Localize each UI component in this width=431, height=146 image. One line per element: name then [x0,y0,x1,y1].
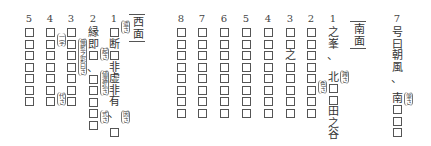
blank-box [46,74,55,83]
blank-box [393,117,402,126]
blank-box [286,63,295,72]
blank-box [242,97,251,106]
blank-box [67,86,76,95]
blank-box [25,74,34,83]
blank-box [242,109,251,118]
south-column-8 [175,27,187,119]
blank-box [198,86,207,95]
char-cell: 北 [327,72,339,84]
blank-box [198,28,207,37]
column-number: 5 [23,14,35,24]
blank-box [307,74,316,83]
blank-box [307,40,316,49]
blank-box [177,109,186,118]
blank-box [307,97,316,106]
blank-box [25,28,34,37]
blank-box [264,97,273,106]
blank-box [110,28,119,37]
blank-box [264,40,273,49]
west-face-heading: 西面 [129,14,145,42]
blank-box [220,40,229,49]
char-cell: 即 [87,39,99,51]
blank-box [25,97,34,106]
char-cell: 、 [327,141,339,146]
blank-box [329,96,338,105]
blank-box [25,51,34,60]
south-column-6 [218,27,230,119]
south-face-heading: 南面 [350,21,366,49]
blank-box [67,63,76,72]
blank-box [67,97,76,106]
blank-box [198,97,207,106]
blank-box [198,109,207,118]
blank-box [286,86,295,95]
char-cell: 有 [108,96,120,108]
blank-box [177,40,186,49]
column-number: 4 [262,14,274,24]
blank-box [220,97,229,106]
char-cell: 田 [327,106,339,118]
blank-box [46,86,55,95]
blank-box [242,74,251,83]
blank-box [177,51,186,60]
column-number: 3 [284,14,296,24]
char-cell: 断 [108,39,120,51]
blank-box [329,84,338,93]
blank-box [46,28,55,37]
char-cell: 、 [391,73,403,85]
blank-box [242,40,251,49]
column-number: 3 [65,14,77,24]
blank-box [89,109,98,118]
blank-box [46,40,55,49]
char-cell: 之 [284,50,296,62]
column-number: 1 [108,14,120,24]
blank-box [89,75,98,84]
south-column-5 [240,27,252,119]
blank-box [46,63,55,72]
blank-box [67,74,76,83]
char-cell: 谷 [327,129,339,141]
blank-box [25,63,34,72]
south-column-2 [305,27,317,119]
blank-box [198,63,207,72]
blank-box [198,40,207,49]
blank-box [67,40,76,49]
blank-box [89,51,98,60]
blank-box [220,51,229,60]
column-number: 5 [240,14,252,24]
blank-box [46,51,55,60]
south-column-4 [262,27,274,119]
blank-box [220,63,229,72]
char-cell: 虚 [108,73,120,85]
blank-box [242,63,251,72]
char-cell: 、 [327,50,339,62]
annotation: 俺藍之彩曰さ [78,38,87,76]
blank-box [25,40,34,49]
column-number: 4 [44,14,56,24]
char-cell: 之 [327,27,339,39]
west-column-2: 縁 即 、 [87,27,99,131]
south-column-1: 之 峯 、 北 田 之 谷 、 [327,27,339,145]
blank-box [286,97,295,106]
west-column-5 [23,27,35,108]
blank-box [220,109,229,118]
blank-box [242,51,251,60]
blank-box [110,51,119,60]
blank-box [264,109,273,118]
east-column-7: 号 曰 朝 風 、 南 [391,27,403,139]
annotation: 色さ [318,80,327,94]
blank-box [25,86,34,95]
south-column-7 [196,27,208,119]
blank-box [89,121,98,130]
blank-box [393,105,402,114]
blank-box [198,74,207,83]
annotation: 肇さ [404,92,413,106]
blank-box [264,74,273,83]
blank-box [242,86,251,95]
west-column-1: 断 非 虚 非 有 、 [108,27,120,139]
blank-box [242,28,251,37]
blank-box [177,97,186,106]
blank-box [307,51,316,60]
blank-box [286,40,295,49]
blank-box [177,28,186,37]
